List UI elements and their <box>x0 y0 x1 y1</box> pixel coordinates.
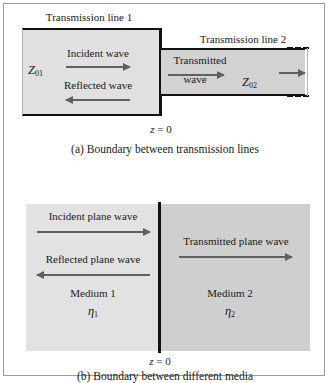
medium-1-label: Medium 1 <box>70 288 116 299</box>
medium-2-label: Medium 2 <box>207 288 253 299</box>
medium-1-eta: η1 <box>88 305 98 319</box>
transmitted-plane-wave-label: Transmitted plane wave <box>183 236 288 247</box>
medium-1-region <box>26 204 160 351</box>
reflected-plane-wave-label: Reflected plane wave <box>46 254 141 265</box>
figure-frame: Transmission line 1 Transmission line 2 … <box>3 3 325 376</box>
panel-b-caption: (b) Boundary between different media <box>77 371 253 383</box>
medium-2-eta: η2 <box>225 305 235 319</box>
panel-b-different-media: Incident plane wave Transmitted plane wa… <box>4 4 324 375</box>
boundary-z-equals-zero-b: z = 0 <box>149 356 171 367</box>
medium-2-region <box>160 204 310 351</box>
incident-plane-wave-label: Incident plane wave <box>49 211 138 222</box>
media-interface-line <box>158 202 161 353</box>
